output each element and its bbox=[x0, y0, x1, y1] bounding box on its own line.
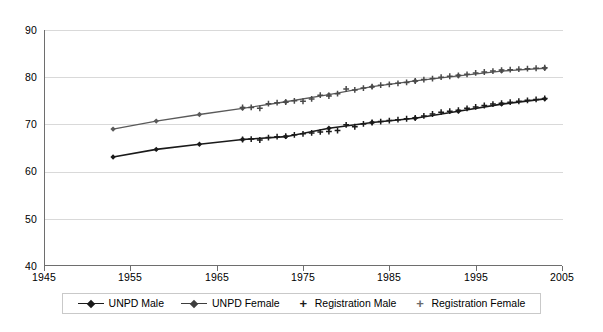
x-tick-1945: 1945 bbox=[19, 272, 69, 283]
legend-entry-registration-male: + Registration Male bbox=[297, 298, 397, 309]
y-tick-60: 60 bbox=[7, 166, 37, 177]
diamond-line-icon bbox=[181, 298, 207, 309]
y-tick-40: 40 bbox=[7, 261, 37, 272]
life-expectancy-line-chart: 90 80 70 60 50 40 1945 1955 1965 1975 19… bbox=[0, 0, 603, 332]
chart-legend: UNPD Male UNPD Female + Registration Mal… bbox=[62, 293, 541, 314]
diamond-line-icon bbox=[78, 298, 104, 309]
gridline-50 bbox=[45, 219, 563, 220]
x-tick-2005: 2005 bbox=[537, 272, 587, 283]
x-tick-1985: 1985 bbox=[364, 272, 414, 283]
y-tick-80: 80 bbox=[7, 72, 37, 83]
x-tick-1995: 1995 bbox=[451, 272, 501, 283]
legend-label-registration-male: Registration Male bbox=[315, 298, 397, 309]
y-tick-90: 90 bbox=[7, 25, 37, 36]
plus-marker-icon: + bbox=[297, 298, 310, 309]
x-tick-1955: 1955 bbox=[105, 272, 155, 283]
legend-label-registration-female: Registration Female bbox=[431, 298, 525, 309]
y-tick-70: 70 bbox=[7, 119, 37, 130]
gridline-70 bbox=[45, 124, 563, 125]
legend-entry-unpd-male: UNPD Male bbox=[78, 298, 164, 309]
plus-marker-icon: + bbox=[413, 298, 426, 309]
plot-area bbox=[44, 30, 562, 266]
legend-entry-unpd-female: UNPD Female bbox=[181, 298, 280, 309]
x-tick-1965: 1965 bbox=[192, 272, 242, 283]
gridline-80 bbox=[45, 77, 563, 78]
legend-label-unpd-female: UNPD Female bbox=[212, 298, 280, 309]
gridline-60 bbox=[45, 172, 563, 173]
x-tick-1975: 1975 bbox=[278, 272, 328, 283]
y-tick-50: 50 bbox=[7, 214, 37, 225]
gridline-90 bbox=[45, 30, 563, 31]
legend-entry-registration-female: + Registration Female bbox=[413, 298, 525, 309]
legend-label-unpd-male: UNPD Male bbox=[109, 298, 164, 309]
